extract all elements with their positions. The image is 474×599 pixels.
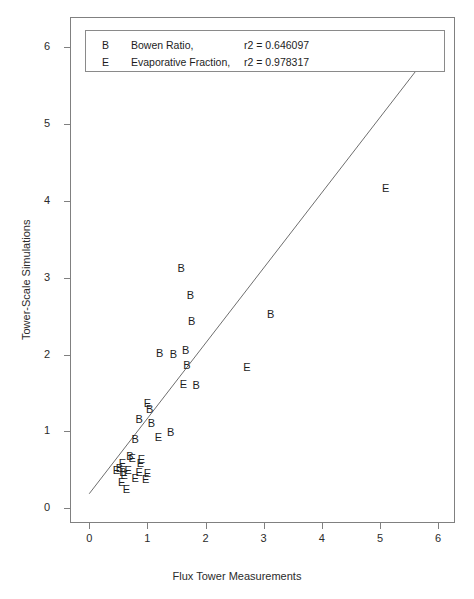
y-tick-mark [64, 201, 70, 202]
chart-root: BBBBBBBBBBBBBBBBBEEEEEEEEEEEEEEEEEE 0123… [0, 0, 474, 599]
legend-r2-value: r2 = 0.646097 [244, 39, 309, 51]
legend-r2-value: r2 = 0.978317 [244, 56, 309, 68]
data-point-e: E [144, 398, 151, 409]
data-point-e: E [155, 431, 162, 442]
x-tick-mark [322, 523, 323, 529]
data-point-b: B [193, 379, 200, 390]
x-tick-mark [438, 523, 439, 529]
x-tick-label: 0 [74, 532, 104, 544]
data-point-b: B [183, 360, 190, 371]
x-tick-label: 5 [365, 532, 395, 544]
regression-line [0, 0, 474, 599]
y-tick-mark [64, 47, 70, 48]
y-axis-title: Tower-Scale Simulations [20, 220, 32, 340]
data-point-e: E [113, 464, 120, 475]
x-tick-mark [147, 523, 148, 529]
legend: BBowen Ratio,r2 = 0.646097EEvaporative F… [85, 30, 445, 72]
y-tick-label: 5 [36, 117, 58, 129]
y-tick-label: 6 [36, 40, 58, 52]
x-axis-title: Flux Tower Measurements [0, 570, 474, 582]
y-tick-mark [64, 278, 70, 279]
data-point-e: E [129, 452, 136, 463]
y-tick-label: 4 [36, 194, 58, 206]
data-point-b: B [187, 289, 194, 300]
data-point-b: B [156, 348, 163, 359]
y-tick-mark [64, 124, 70, 125]
y-tick-mark [64, 431, 70, 432]
x-tick-label: 3 [249, 532, 279, 544]
data-point-e: E [131, 472, 138, 483]
data-point-e: E [382, 183, 389, 194]
y-tick-label: 2 [36, 348, 58, 360]
y-tick-label: 1 [36, 424, 58, 436]
data-point-b: B [182, 344, 189, 355]
x-tick-mark [264, 523, 265, 529]
data-point-b: B [188, 315, 195, 326]
legend-label: Bowen Ratio, [131, 39, 193, 51]
data-point-b: B [136, 414, 143, 425]
data-point-e: E [123, 484, 130, 495]
x-tick-mark [380, 523, 381, 529]
legend-marker-e: E [102, 56, 109, 68]
x-tick-label: 6 [423, 532, 453, 544]
x-tick-mark [89, 523, 90, 529]
data-point-e: E [180, 378, 187, 389]
data-point-b: B [267, 308, 274, 319]
y-tick-mark [64, 355, 70, 356]
legend-label: Evaporative Fraction, [131, 56, 230, 68]
y-tick-label: 0 [36, 501, 58, 513]
y-tick-label: 3 [36, 271, 58, 283]
data-point-e: E [142, 474, 149, 485]
data-point-b: B [177, 263, 184, 274]
data-point-b: B [167, 427, 174, 438]
legend-marker-b: B [102, 39, 109, 51]
data-point-e: E [243, 361, 250, 372]
x-tick-mark [206, 523, 207, 529]
x-tick-label: 4 [307, 532, 337, 544]
data-point-b: B [148, 418, 155, 429]
data-point-b: B [170, 348, 177, 359]
y-tick-mark [64, 508, 70, 509]
x-tick-label: 2 [191, 532, 221, 544]
x-tick-label: 1 [132, 532, 162, 544]
data-point-b: B [131, 434, 138, 445]
